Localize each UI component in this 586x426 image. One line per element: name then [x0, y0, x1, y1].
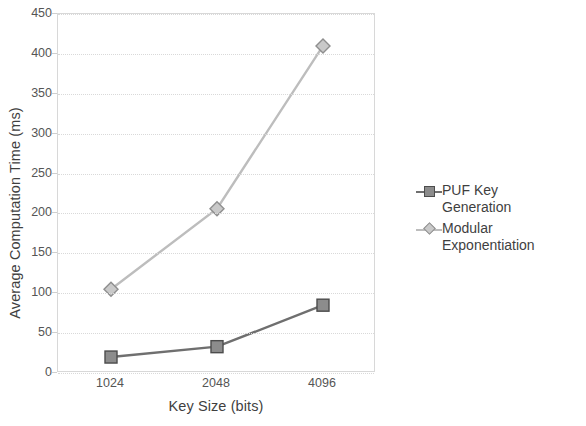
x-axis-tick-label: 2048 — [202, 376, 230, 390]
x-axis-tick-label: 4096 — [308, 376, 336, 390]
y-axis-tick-label: 250 — [6, 166, 52, 180]
y-axis-tick-label: 400 — [6, 46, 52, 60]
y-axis-tick-label: 300 — [6, 126, 52, 140]
gridline — [58, 213, 374, 214]
data-point-marker — [316, 39, 330, 53]
legend-item[interactable]: PUF Key Generation — [416, 182, 584, 216]
legend-symbol — [423, 222, 436, 235]
gridline — [58, 54, 374, 55]
chart-container: Average Computation Time (ms) 0501001502… — [0, 0, 586, 426]
data-point-marker — [211, 341, 223, 353]
legend-square-marker-icon — [416, 183, 442, 200]
legend-label: Modular Exponentiation — [442, 220, 535, 254]
x-axis-title: Key Size (bits) — [57, 398, 375, 414]
legend-label: PUF Key Generation — [442, 182, 511, 216]
chart-legend: PUF Key GenerationModular Exponentiation — [416, 182, 584, 258]
gridline — [58, 174, 374, 175]
gridline — [58, 293, 374, 294]
y-axis-tick-label: 350 — [6, 86, 52, 100]
gridline — [58, 94, 374, 95]
y-axis-tick-mark — [52, 372, 57, 373]
gridline — [58, 253, 374, 254]
x-axis-tick-group: 102420484096 — [57, 374, 375, 396]
y-axis-tick-label: 450 — [6, 6, 52, 20]
y-axis-tick-label: 200 — [6, 205, 52, 219]
legend-symbol — [424, 186, 435, 197]
plot-area — [57, 13, 375, 372]
x-axis-tick-label: 1024 — [96, 376, 124, 390]
data-point-marker — [317, 299, 329, 311]
y-axis-tick-label: 100 — [6, 285, 52, 299]
data-point-marker — [105, 351, 117, 363]
gridline — [58, 134, 374, 135]
y-axis-tick-label: 50 — [6, 325, 52, 339]
legend-item[interactable]: Modular Exponentiation — [416, 220, 584, 254]
y-axis-tick-label: 150 — [6, 245, 52, 259]
y-axis-tick-group: 050100150200250300350400450 — [0, 13, 52, 372]
legend-diamond-marker-icon — [416, 221, 442, 238]
gridline — [58, 333, 374, 334]
gridline — [58, 14, 374, 15]
y-axis-tick-label: 0 — [6, 365, 52, 379]
series-canvas — [58, 14, 376, 373]
